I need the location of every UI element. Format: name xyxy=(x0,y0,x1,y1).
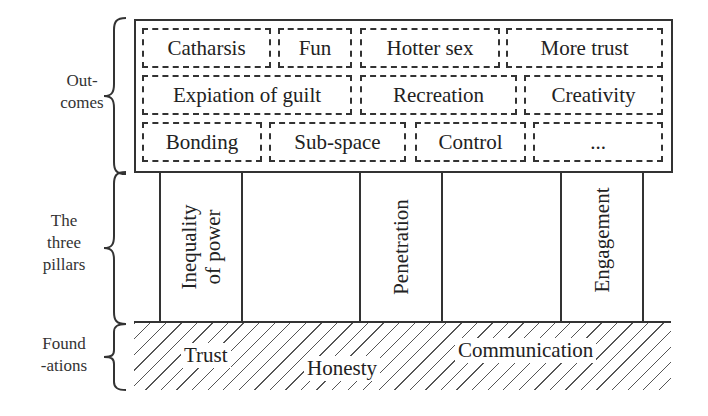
pillar-label: Engagement xyxy=(590,188,614,293)
outcome-label: Expiation of guilt xyxy=(173,83,321,108)
pillar-inequality-of-power: Inequality of power xyxy=(159,171,243,322)
outcome-expiation-of-guilt: Expiation of guilt xyxy=(142,75,352,115)
outcome-creativity: Creativity xyxy=(524,75,663,115)
outcome-label: Fun xyxy=(299,36,332,61)
foundation-honesty: Honesty xyxy=(304,356,380,381)
foundation-communication: Communication xyxy=(455,338,596,363)
label-foundations-line1: Found xyxy=(24,333,104,355)
pillar-label: Inequality of power xyxy=(177,204,225,289)
outcome-label: Catharsis xyxy=(167,36,245,61)
outcome-recreation: Recreation xyxy=(360,75,517,115)
outcome-control: Control xyxy=(415,122,526,162)
brace-icon-foundations xyxy=(100,322,132,392)
label-foundations: Found -ations xyxy=(24,333,104,377)
pillar-label-line1: Penetration xyxy=(389,199,413,295)
outcome-label: Creativity xyxy=(552,83,636,108)
outcome-label: Bonding xyxy=(166,130,238,155)
outcome-label: Recreation xyxy=(393,83,484,108)
label-pillars-line2: three xyxy=(24,232,104,254)
outcome-fun: Fun xyxy=(278,28,352,68)
brace-icon-outcomes xyxy=(100,16,132,176)
outcome-label: ... xyxy=(590,130,606,155)
pillar-label-line1: Engagement xyxy=(590,188,614,293)
pillar-engagement: Engagement xyxy=(560,171,644,322)
pillar-label-line1: Inequality xyxy=(177,204,201,289)
foundation-trust: Trust xyxy=(181,343,231,368)
outcome-label: Control xyxy=(438,130,502,155)
brace-icon-pillars xyxy=(100,170,132,326)
label-pillars-line3: pillars xyxy=(24,254,104,276)
pillar-penetration: Penetration xyxy=(359,171,443,322)
label-pillars-line1: The xyxy=(24,210,104,232)
outcome-label: Hotter sex xyxy=(387,36,474,61)
outcome-label: More trust xyxy=(540,36,628,61)
outcome-catharsis: Catharsis xyxy=(142,28,271,68)
pillar-label-line2: of power xyxy=(201,204,225,289)
outcome-more-trust: More trust xyxy=(506,28,663,68)
pillar-label: Penetration xyxy=(389,199,413,295)
outcome-bonding: Bonding xyxy=(142,122,262,162)
label-foundations-line2: -ations xyxy=(24,355,104,377)
outcome-hotter-sex: Hotter sex xyxy=(360,28,500,68)
label-three-pillars: The three pillars xyxy=(24,210,104,276)
outcome-sub-space: Sub-space xyxy=(269,122,406,162)
outcome-ellipsis: ... xyxy=(533,122,663,162)
outcome-label: Sub-space xyxy=(294,130,380,155)
